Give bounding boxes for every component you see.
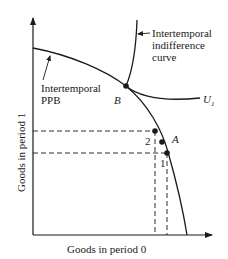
- u-letter: U: [203, 93, 211, 105]
- point-1-label: 1: [160, 158, 166, 169]
- ppb-label-arrow: [43, 56, 50, 80]
- ppb-label-line2: PPB: [41, 95, 61, 106]
- u1-label: U1: [203, 94, 214, 110]
- point-2: [152, 128, 158, 134]
- point-b: [123, 83, 129, 89]
- point-a-label: A: [172, 134, 179, 145]
- point-2-label: 2: [145, 136, 151, 147]
- indiff-label-line3: curve: [152, 52, 176, 63]
- indiff-label-arrow: [138, 33, 150, 34]
- ppb-label-line1: Intertemporal: [41, 83, 101, 94]
- point-a: [159, 139, 165, 145]
- point-b-label: B: [114, 95, 121, 106]
- point-1: [164, 150, 170, 156]
- y-axis-label: Goods in period 1: [15, 113, 27, 192]
- u-subscript: 1: [211, 100, 215, 108]
- indiff-label-line1: Intertemporal: [152, 28, 212, 39]
- indiff-label-line2: indifference: [152, 40, 205, 51]
- x-axis-label: Goods in period 0: [67, 244, 146, 255]
